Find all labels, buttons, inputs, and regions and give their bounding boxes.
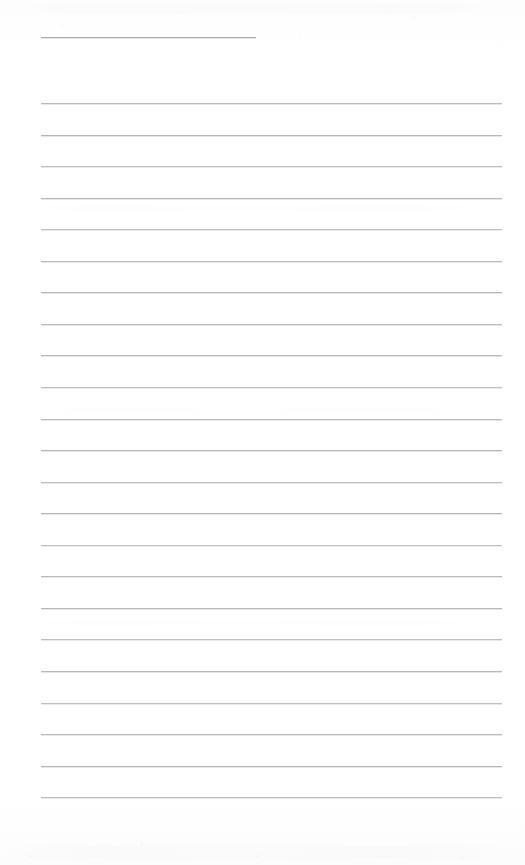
- ruled-line: [41, 671, 502, 672]
- ruled-line: [41, 292, 502, 293]
- ruled-line: [41, 797, 502, 798]
- ruled-line: [41, 198, 502, 199]
- ruled-line: [41, 261, 502, 262]
- ruled-line: [41, 639, 502, 640]
- ruled-line: [41, 135, 502, 136]
- ruled-line: [41, 324, 502, 325]
- ruled-line: [41, 482, 502, 483]
- ruled-line: [41, 545, 502, 546]
- ruled-line: [41, 450, 502, 451]
- scanned-page: [0, 0, 525, 865]
- ruled-line: [41, 576, 502, 577]
- ruled-line: [41, 513, 502, 514]
- ruled-line: [41, 166, 502, 167]
- title-rule: [41, 37, 256, 38]
- ruled-line: [41, 766, 502, 767]
- ruled-line: [41, 703, 502, 704]
- ruled-line: [41, 734, 502, 735]
- ruled-line: [41, 608, 502, 609]
- ruled-line: [41, 355, 502, 356]
- ruled-line: [41, 229, 502, 230]
- ruled-line: [41, 387, 502, 388]
- ruled-line: [41, 103, 502, 104]
- ruled-line: [41, 419, 502, 420]
